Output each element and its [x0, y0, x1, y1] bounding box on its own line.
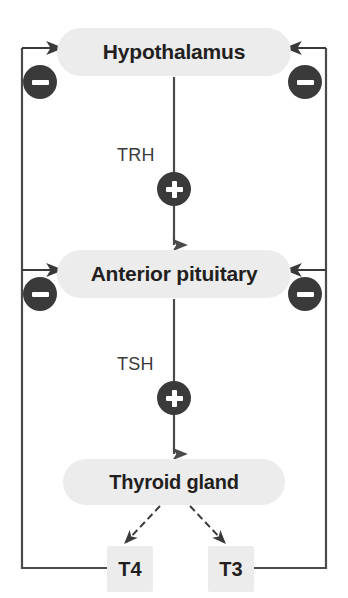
- minus-badge-hypothalamus-right: [288, 65, 322, 99]
- node-anterior-pituitary-label: Anterior pituitary: [91, 262, 258, 286]
- plus-badge-tsh: [157, 381, 191, 415]
- plus-badge-trh: [157, 172, 191, 206]
- node-hypothalamus-label: Hypothalamus: [103, 40, 245, 64]
- minus-badge-pituitary-left: [23, 277, 57, 311]
- thyroid-axis-diagram: Hypothalamus Anterior pituitary Thyroid …: [0, 0, 348, 598]
- minus-badge-pituitary-right: [288, 277, 322, 311]
- hormone-box-t3-label: T3: [219, 558, 242, 581]
- hormone-box-t4: T4: [107, 546, 153, 592]
- minus-badge-hypothalamus-left: [23, 65, 57, 99]
- hormone-label-tsh: TSH: [117, 354, 154, 375]
- plus-icon: [172, 390, 177, 407]
- node-hypothalamus: Hypothalamus: [57, 28, 291, 76]
- minus-icon: [297, 292, 314, 297]
- node-thyroid-gland: Thyroid gland: [63, 459, 285, 505]
- hormone-label-trh: TRH: [117, 145, 155, 166]
- arrow-thyroid-to-t4: [126, 506, 160, 542]
- hormone-box-t3: T3: [208, 546, 254, 592]
- node-thyroid-gland-label: Thyroid gland: [109, 471, 239, 494]
- node-anterior-pituitary: Anterior pituitary: [57, 250, 291, 298]
- minus-icon: [32, 292, 49, 297]
- plus-icon: [172, 181, 177, 198]
- minus-icon: [297, 80, 314, 85]
- arrow-thyroid-to-t3: [190, 506, 224, 542]
- hormone-box-t4-label: T4: [118, 558, 141, 581]
- minus-icon: [32, 80, 49, 85]
